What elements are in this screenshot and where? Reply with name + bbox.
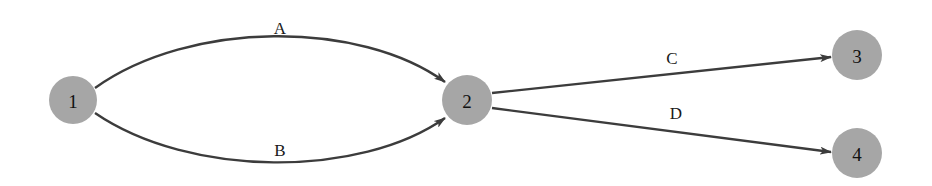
- node-2-label: 2: [462, 91, 472, 112]
- edge-c-label: C: [666, 49, 677, 68]
- edge-b: B: [95, 113, 445, 162]
- edge-d-label: D: [670, 104, 682, 123]
- node-4-label: 4: [852, 144, 862, 165]
- edge-b-arrow: [95, 113, 445, 162]
- edge-a: A: [95, 19, 445, 88]
- edge-c: C: [492, 49, 831, 93]
- edge-a-arrow: [95, 36, 445, 88]
- edge-b-label: B: [274, 141, 285, 160]
- node-3-label: 3: [852, 46, 862, 67]
- node-1: 1: [49, 76, 97, 124]
- node-3: 3: [832, 30, 882, 80]
- node-1-label: 1: [68, 91, 78, 112]
- node-4: 4: [832, 128, 882, 178]
- edge-d: D: [492, 104, 831, 152]
- edge-a-label: A: [274, 19, 287, 38]
- node-2: 2: [442, 75, 492, 125]
- edge-d-arrow: [492, 108, 831, 152]
- network-diagram: A B C D 1 2 3 4: [0, 0, 932, 186]
- edge-c-arrow: [492, 57, 831, 93]
